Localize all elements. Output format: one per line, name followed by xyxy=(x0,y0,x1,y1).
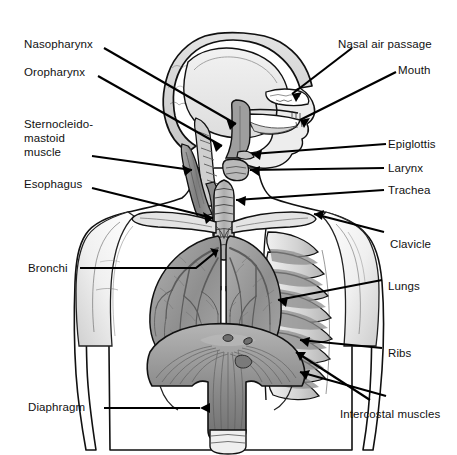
label-nasal-air-passage: Nasal air passage xyxy=(338,38,432,52)
label-clavicle: Clavicle xyxy=(390,238,431,252)
label-sternocleidomastoid-muscle: Sternocleido- mastoid muscle xyxy=(24,117,120,159)
label-diaphragm: Diaphragm xyxy=(28,401,85,415)
label-nasopharynx: Nasopharynx xyxy=(24,38,93,52)
label-scm-line1: Sternocleido- xyxy=(24,118,93,130)
label-lungs: Lungs xyxy=(388,280,420,294)
label-scm-line2: mastoid xyxy=(24,132,65,144)
label-esophagus: Esophagus xyxy=(24,178,82,192)
label-mouth: Mouth xyxy=(398,64,430,78)
label-bronchi: Bronchi xyxy=(28,262,68,276)
label-larynx: Larynx xyxy=(388,162,423,176)
label-epiglottis: Epiglottis xyxy=(388,138,436,152)
label-scm-line3: muscle xyxy=(24,146,61,158)
label-intercostal-muscles: Intercostal muscles xyxy=(340,408,440,422)
label-oropharynx: Oropharynx xyxy=(24,66,85,80)
label-trachea: Trachea xyxy=(388,184,430,198)
label-ribs: Ribs xyxy=(388,347,411,361)
respiratory-system-diagram: Nasopharynx Oropharynx Sternocleido- mas… xyxy=(0,0,457,455)
